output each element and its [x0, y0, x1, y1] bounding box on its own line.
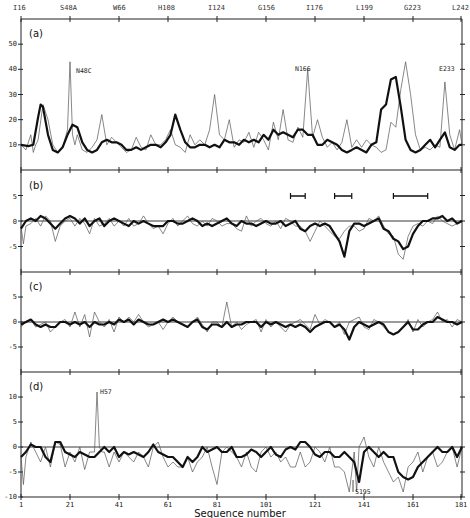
- x-tick-label: 121: [309, 501, 322, 509]
- panel-label-c: (c): [29, 281, 42, 292]
- y-tick-label: 10: [9, 141, 17, 149]
- annotation-n166: N166: [295, 65, 311, 73]
- top-axis-label: L242: [452, 4, 469, 12]
- x-tick-label: 181: [455, 501, 468, 509]
- top-axis-label: G156: [258, 4, 275, 12]
- top-axis-label: I16: [13, 4, 26, 12]
- y-tick-label: 5: [13, 193, 17, 201]
- y-tick-label: -5: [9, 468, 17, 476]
- x-tick-label: 61: [164, 501, 172, 509]
- y-tick-label: -5: [9, 243, 17, 251]
- y-tick-label: 5: [13, 418, 17, 426]
- x-axis-title: Sequence number: [194, 508, 286, 518]
- x-tick-label: 141: [358, 501, 371, 509]
- panel-label-b: (b): [29, 180, 43, 191]
- chart-labels: I16 S48A W66 H108 I124 G156 I176 L199 G2…: [0, 0, 470, 518]
- annotation-n48c: N48C: [76, 67, 92, 75]
- annotation-e233: E233: [439, 65, 455, 73]
- top-axis-label: I176: [306, 4, 323, 12]
- x-tick-label: 21: [66, 501, 74, 509]
- panel-label-d: (d): [29, 381, 43, 392]
- panel-label-a: (a): [29, 28, 43, 39]
- y-tick-label: 5: [13, 293, 17, 301]
- top-axis-label: L199: [356, 4, 373, 12]
- y-tick-label: 10: [9, 393, 17, 401]
- x-tick-label: 41: [115, 501, 123, 509]
- y-tick-label: 0: [13, 218, 17, 226]
- top-axis-label: G223: [404, 4, 421, 12]
- top-axis-label: S48A: [60, 4, 78, 12]
- y-tick-label: 0: [13, 443, 17, 451]
- y-tick-label: -10: [4, 493, 17, 501]
- y-tick-label: 50: [9, 40, 17, 48]
- y-tick-label: 30: [9, 91, 17, 99]
- y-tick-label: 20: [9, 116, 17, 124]
- annotation-h57: H57: [100, 388, 112, 396]
- top-axis-label: W66: [113, 4, 126, 12]
- y-tick-label: 40: [9, 65, 17, 73]
- x-tick-label: 161: [407, 501, 420, 509]
- y-tick-label: -5: [9, 343, 17, 351]
- annotation-s195: S195: [355, 488, 371, 496]
- top-axis-label: I124: [208, 4, 225, 12]
- x-tick-label: 1: [19, 501, 23, 509]
- y-tick-label: 0: [13, 318, 17, 326]
- figure: I16 S48A W66 H108 I124 G156 I176 L199 G2…: [0, 0, 470, 518]
- top-axis-label: H108: [158, 4, 175, 12]
